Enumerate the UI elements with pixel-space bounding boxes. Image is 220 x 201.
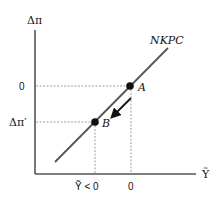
point-a-label: A [137, 81, 146, 94]
point-a [126, 82, 134, 90]
x-tick-negative: Ỹ < 0 [75, 180, 99, 192]
x-axis-label: Ỹ [201, 167, 210, 181]
nkpc-curve [55, 48, 168, 162]
nkpc-diagram: Δπ Ỹ NKPC A B 0 Δπ′ Ỹ < 0 0 [0, 0, 220, 201]
point-b [91, 118, 99, 126]
curve-label: NKPC [149, 34, 184, 47]
y-axis-label: Δπ [27, 14, 42, 27]
point-b-label: B [101, 117, 110, 130]
x-tick-zero: 0 [128, 181, 134, 192]
y-tick-dpi: Δπ′ [9, 116, 27, 129]
y-tick-zero: 0 [19, 81, 25, 92]
